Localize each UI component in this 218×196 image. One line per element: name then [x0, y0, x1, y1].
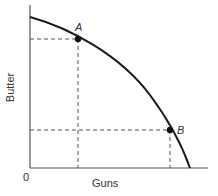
point-a-marker	[75, 36, 81, 42]
ppf-curve	[30, 17, 190, 168]
y-axis-label: Butter	[5, 73, 16, 102]
origin-label: 0	[23, 172, 29, 183]
ppf-chart	[0, 0, 218, 196]
point-b-marker	[167, 127, 173, 133]
point-a-label: A	[75, 22, 82, 33]
x-axis-label: Guns	[92, 178, 118, 189]
point-b-label: B	[177, 125, 184, 136]
